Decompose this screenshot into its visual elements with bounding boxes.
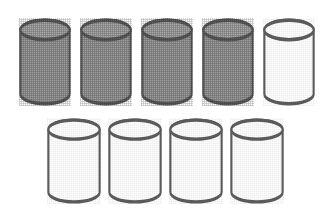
cylinder-1 [19,18,71,106]
figure-canvas [0,0,333,218]
cylinder-7 [108,118,162,204]
cylinder-4 [202,18,254,106]
cylinder-4-top-ellipse [203,20,252,39]
cylinder-6-top-ellipse [48,120,99,139]
cylinder-9-top-ellipse [231,120,282,139]
cylinder-3 [141,18,193,106]
cylinder-5 [263,18,315,106]
cylinder-9 [230,118,284,204]
cylinder-6 [47,118,101,204]
cylinder-1-top-ellipse [20,20,69,39]
cylinder-5-top-ellipse [264,20,313,39]
cylinder-8-top-ellipse [170,120,221,139]
cylinder-7-top-ellipse [109,120,160,139]
cylinder-3-top-ellipse [142,20,191,39]
cylinder-2-top-ellipse [81,20,130,39]
cylinder-2 [80,18,132,106]
cylinder-8 [169,118,223,204]
